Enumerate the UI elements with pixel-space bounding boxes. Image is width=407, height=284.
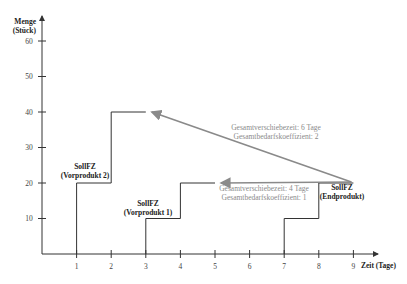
- x-tick-label: 6: [248, 262, 252, 271]
- step-line-2: [146, 183, 215, 254]
- axes: [42, 16, 378, 254]
- y-tick-label: 30: [25, 143, 33, 152]
- x-axis-title: Zeit (Tage): [361, 261, 396, 270]
- x-tick-label: 3: [144, 262, 148, 271]
- step-label-line2: (Vorprodukt 2): [61, 171, 110, 180]
- x-tick-label: 2: [109, 262, 113, 271]
- shift-arrows: Gesamtverschiebezeit: 6 TageGesamtbedarf…: [152, 112, 352, 202]
- step-label-line1: SollFZ: [137, 199, 159, 208]
- arrow-annotation-line1: Gesamtverschiebezeit: 6 Tage: [231, 123, 321, 132]
- step-label-line2: (Vorprodukt 1): [124, 208, 173, 217]
- step-label-line1: SollFZ: [74, 162, 96, 171]
- arrow-shift-to-vorprodukt-1: [221, 182, 351, 183]
- arrow-annotation-line1: Gesamtverschiebezeit: 4 Tage: [219, 184, 309, 193]
- diagram-canvas: 123456789 102030405060 Menge (Stück) Zei…: [0, 0, 407, 284]
- y-axis-title-line2: (Stück): [13, 26, 37, 35]
- x-tick-label: 7: [282, 262, 286, 271]
- x-ticks: 123456789: [75, 250, 356, 271]
- step-line-1: [77, 112, 146, 254]
- x-tick-label: 9: [352, 262, 356, 271]
- arrow-annotation-line2: Gesamtbedarfskoeffizient: 1: [221, 193, 306, 202]
- x-tick-label: 4: [179, 262, 183, 271]
- y-tick-label: 10: [25, 214, 33, 223]
- y-ticks: 102030405060: [25, 37, 46, 224]
- y-tick-label: 50: [25, 72, 33, 81]
- x-tick-label: 5: [213, 262, 217, 271]
- y-tick-label: 60: [25, 37, 33, 46]
- y-tick-label: 40: [25, 108, 33, 117]
- step-label-line1: SollFZ: [331, 183, 353, 192]
- step-label-line2: (Endprodukt): [320, 192, 365, 201]
- y-axis-title-line1: Menge: [14, 17, 36, 26]
- arrow-annotation-line2: Gesamtbedarfskoeffizient: 2: [233, 132, 318, 141]
- x-tick-label: 1: [75, 262, 79, 271]
- x-tick-label: 8: [317, 262, 321, 271]
- y-tick-label: 20: [25, 179, 33, 188]
